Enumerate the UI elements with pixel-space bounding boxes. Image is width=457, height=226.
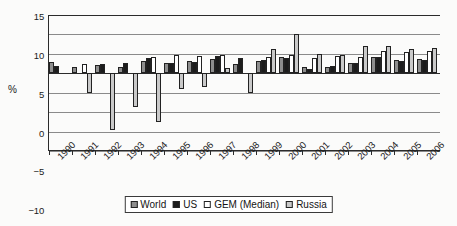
- y-axis-title: %: [8, 84, 17, 95]
- legend-label: World: [140, 199, 166, 210]
- bar-gem-median-2002: [335, 56, 340, 73]
- bar-group-1995: [164, 15, 187, 150]
- bar-russia-1993: [133, 73, 138, 106]
- bar-us-2001: [307, 69, 312, 73]
- bar-world-2006: [417, 59, 422, 74]
- bar-us-1996: [192, 62, 197, 74]
- bar-world-1999: [256, 61, 261, 73]
- bar-gem-median-2001: [312, 58, 317, 74]
- bar-group-2006: [417, 15, 440, 150]
- bar-gem-median-1997: [220, 55, 225, 73]
- bar-russia-1994: [156, 73, 161, 122]
- bar-russia-1991: [87, 73, 92, 92]
- bar-russia-2004: [386, 46, 391, 73]
- bar-russia-1995: [179, 73, 184, 89]
- bar-world-1992: [95, 65, 100, 73]
- bar-russia-1999: [271, 49, 276, 73]
- bar-group-2001: [302, 15, 325, 150]
- bar-groups: [49, 15, 440, 150]
- bar-world-1995: [164, 63, 169, 73]
- bar-us-1998: [238, 58, 243, 73]
- bar-world-2003: [348, 63, 353, 73]
- y-tick-label: −5: [34, 166, 49, 177]
- bar-world-1998: [233, 64, 238, 73]
- y-tick-label: 10: [34, 49, 49, 60]
- y-tick-label: 0: [39, 127, 49, 138]
- bar-group-2004: [371, 15, 394, 150]
- bar-world-2005: [394, 60, 399, 73]
- bar-us-1999: [261, 60, 266, 73]
- legend-swatch-us: [173, 201, 180, 208]
- legend-swatch-russia: [286, 201, 293, 208]
- bar-russia-1996: [202, 73, 207, 87]
- bar-group-1998: [233, 15, 256, 150]
- legend-item-russia[interactable]: Russia: [286, 199, 327, 210]
- legend-label: Russia: [296, 199, 327, 210]
- bar-group-1997: [210, 15, 233, 150]
- bar-gem-median-1991: [82, 64, 87, 73]
- bar-gem-median-2000: [289, 55, 294, 74]
- legend-swatch-world: [130, 201, 137, 208]
- bar-group-1999: [256, 15, 279, 150]
- legend-item-world[interactable]: World: [130, 199, 166, 210]
- bar-group-2003: [348, 15, 371, 150]
- bar-gem-median-2003: [358, 57, 363, 74]
- bar-world-1990: [49, 62, 54, 73]
- bar-group-1996: [187, 15, 210, 150]
- bar-us-2005: [399, 61, 404, 73]
- bar-us-1992: [100, 64, 105, 73]
- bar-group-2005: [394, 15, 417, 150]
- bar-us-1995: [169, 63, 174, 73]
- bar-group-2000: [279, 15, 302, 150]
- bar-us-1993: [123, 63, 128, 73]
- legend-label: GEM (Median): [214, 199, 279, 210]
- legend-label: US: [183, 199, 197, 210]
- bar-gem-median-2005: [404, 52, 409, 73]
- y-tick-label: −10: [28, 205, 49, 216]
- bar-group-1990: [49, 15, 72, 150]
- bar-chart: % 151050−5−10−15−20 19901991199219931994…: [0, 0, 457, 226]
- bar-group-1994: [141, 15, 164, 150]
- bar-group-1993: [118, 15, 141, 150]
- bar-world-2001: [302, 67, 307, 73]
- bar-world-2000: [279, 57, 284, 73]
- bar-world-2002: [325, 67, 330, 74]
- bar-us-2004: [376, 57, 381, 73]
- bar-us-1994: [146, 58, 151, 74]
- bar-russia-2002: [340, 55, 345, 73]
- bar-us-1990: [54, 66, 59, 73]
- bar-us-1997: [215, 56, 220, 73]
- bar-gem-median-1996: [197, 56, 202, 73]
- bar-group-2002: [325, 15, 348, 150]
- bar-us-2000: [284, 58, 289, 74]
- bar-us-2002: [330, 66, 335, 73]
- bar-us-2006: [422, 60, 427, 73]
- legend-swatch-gem: [204, 201, 211, 208]
- bar-russia-2000: [294, 34, 299, 73]
- bar-world-1993: [118, 67, 123, 74]
- plot-area: 151050−5−10−15−20: [48, 15, 440, 151]
- x-axis-labels: 1990199119921993199419951996199719981999…: [48, 151, 440, 195]
- bar-gem-median-1999: [266, 57, 271, 73]
- bar-world-1991: [72, 67, 77, 73]
- legend-item-us[interactable]: US: [173, 199, 197, 210]
- bar-russia-2003: [363, 46, 368, 74]
- bar-world-1997: [210, 59, 215, 73]
- bar-gem-median-1994: [151, 57, 156, 74]
- bar-world-1996: [187, 61, 192, 73]
- bar-russia-1992: [110, 73, 115, 130]
- bar-russia-2006: [432, 48, 437, 74]
- bar-gem-median-2006: [427, 51, 432, 74]
- y-tick-label: 15: [34, 11, 49, 22]
- bar-group-1991: [72, 15, 95, 150]
- bar-russia-2001: [317, 54, 322, 73]
- y-tick-label: 5: [39, 88, 49, 99]
- bar-russia-1997: [225, 68, 230, 73]
- chart-legend: WorldUSGEM (Median)Russia: [124, 196, 332, 213]
- bar-world-2004: [371, 57, 376, 73]
- bar-world-1994: [141, 61, 146, 73]
- legend-item-gem-median[interactable]: GEM (Median): [204, 199, 279, 210]
- bar-gem-median-1995: [174, 55, 179, 73]
- bar-russia-2005: [409, 49, 414, 73]
- bar-us-2003: [353, 63, 358, 73]
